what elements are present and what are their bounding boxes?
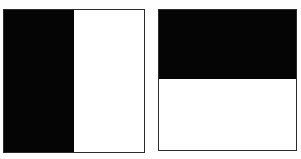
black-left-half (4, 10, 74, 152)
figure-canvas (0, 0, 301, 159)
vertically-bisected-square (3, 9, 145, 153)
white-bottom-half (159, 79, 296, 150)
horizontally-bisected-square (158, 9, 297, 151)
white-right-half (74, 10, 144, 152)
black-top-half (159, 10, 296, 79)
figure-caption (0, 0, 1, 1)
